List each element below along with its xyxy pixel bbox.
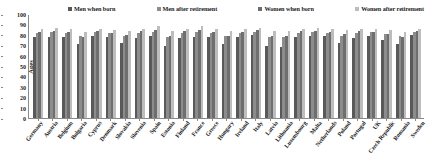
x-tick-label: Germany (25, 120, 44, 142)
y-tick-mark (1, 56, 4, 57)
y-tick-mark (1, 35, 4, 36)
x-tick-label: Finland (174, 120, 191, 139)
bar (55, 28, 58, 118)
legend-swatch-icon (355, 7, 359, 11)
y-tick-label: 50 (20, 64, 29, 70)
bar-group (249, 15, 264, 118)
bar-group (394, 15, 409, 118)
bar (128, 31, 131, 118)
bar (84, 32, 87, 118)
bar (360, 29, 363, 118)
bar-groups (30, 15, 424, 118)
plot-area: Ages 1009080706050403020100 (28, 15, 424, 119)
bar (157, 26, 160, 118)
bar-group (278, 15, 293, 118)
bar (317, 28, 320, 118)
x-tick-label: Italy (252, 120, 264, 133)
bar-group (191, 15, 206, 118)
bar (375, 29, 378, 118)
bar (201, 26, 204, 118)
bar (215, 29, 218, 118)
legend-label: Women after retirement (361, 5, 424, 12)
y-tick-mark (1, 87, 4, 88)
bar-group (46, 15, 61, 118)
x-axis-labels: GermanyAustriaBelgiumBulgariaCyprusDenma… (28, 120, 424, 166)
bar (331, 29, 334, 118)
bar (186, 29, 189, 118)
x-tick-label: UK (371, 120, 381, 131)
bar-group (133, 15, 148, 118)
y-tick-mark (1, 108, 4, 109)
bar (259, 28, 262, 118)
bar-group (220, 15, 235, 118)
bar-group (176, 15, 191, 118)
bar-group (75, 15, 90, 118)
bar (99, 29, 102, 118)
y-tick-mark (1, 67, 4, 68)
legend-label: Men after retirement (163, 5, 218, 12)
bar-group (307, 15, 322, 118)
legend-swatch-icon (68, 7, 72, 11)
y-tick-mark (1, 77, 4, 78)
y-tick-label: 20 (20, 95, 29, 101)
bar-group (321, 15, 336, 118)
bar (171, 31, 174, 118)
y-tick-label: 70 (20, 43, 29, 49)
y-tick-mark (1, 15, 4, 16)
bar (404, 32, 407, 118)
legend-item[interactable]: Women after retirement (355, 5, 424, 12)
y-tick-label: 10 (20, 105, 29, 111)
grouped-bar-chart: Men when bornMen after retirementWomen w… (0, 0, 430, 167)
bar (346, 30, 349, 118)
y-tick-label: 80 (20, 32, 29, 38)
bar-group (336, 15, 351, 118)
bar (418, 29, 421, 118)
bar-group (118, 15, 133, 118)
bar-group (350, 15, 365, 118)
y-tick-label: 40 (20, 74, 29, 80)
bar-group (379, 15, 394, 118)
bar (230, 31, 233, 118)
legend-swatch-icon (157, 7, 161, 11)
bar-group (365, 15, 380, 118)
y-tick-label: 90 (20, 22, 29, 28)
bar-group (104, 15, 119, 118)
bar-group (89, 15, 104, 118)
legend-label: Men when born (74, 5, 115, 12)
x-tick-label: Malta (309, 120, 323, 135)
bar (288, 31, 291, 118)
legend-item[interactable]: Men after retirement (157, 5, 218, 12)
legend-swatch-icon (258, 7, 262, 11)
y-tick-mark (1, 98, 4, 99)
y-tick-mark (1, 119, 4, 120)
legend-item[interactable]: Men when born (68, 5, 115, 12)
bar-group (162, 15, 177, 118)
bar (142, 29, 145, 118)
bar-group (408, 15, 423, 118)
y-tick-label: 60 (20, 53, 29, 59)
bar (244, 29, 247, 118)
chart-legend: Men when bornMen after retirementWomen w… (68, 2, 424, 15)
bar-group (31, 15, 46, 118)
bar (70, 29, 73, 118)
bar-group (205, 15, 220, 118)
bar-group (147, 15, 162, 118)
x-tick-label: France (190, 120, 205, 137)
bar (41, 29, 44, 118)
bar (113, 30, 116, 118)
bar-group (60, 15, 75, 118)
bar-group (234, 15, 249, 118)
y-tick-mark (1, 46, 4, 47)
x-tick-label: Estonia (160, 120, 176, 138)
y-tick-label: 30 (20, 84, 29, 90)
bar (273, 31, 276, 118)
y-tick-label: 100 (17, 12, 29, 18)
bar (389, 30, 392, 118)
bar-group (263, 15, 278, 118)
bar-group (292, 15, 307, 118)
bar (302, 29, 305, 118)
x-tick-label: Ireland (233, 120, 249, 138)
legend-item[interactable]: Women when born (258, 5, 313, 12)
y-tick-mark (1, 25, 4, 26)
legend-label: Women when born (264, 5, 313, 12)
